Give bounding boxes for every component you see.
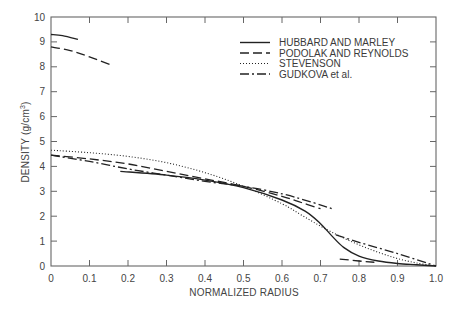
series-line (51, 47, 113, 66)
y-tick-label: 8 (39, 61, 45, 72)
y-tick-label: 3 (39, 186, 45, 197)
series-line (336, 235, 436, 266)
series-dotted (51, 150, 436, 266)
series-line (51, 150, 436, 266)
x-tick-label: 1.0 (429, 273, 443, 284)
x-tick-label: 0.6 (275, 273, 289, 284)
y-tick-label: 7 (39, 86, 45, 97)
x-tick-label: 0.5 (237, 273, 251, 284)
data-series (51, 34, 436, 266)
x-tick-label: 0.8 (352, 273, 366, 284)
x-tick-label: 0.9 (391, 273, 405, 284)
x-tick-label: 0.3 (160, 273, 174, 284)
y-tick-label: 9 (39, 36, 45, 47)
legend-label: GUDKOVA et al. (279, 69, 352, 80)
legend-label: HUBBARD AND MARLEY (279, 37, 395, 48)
x-tick-label: 0.4 (198, 273, 212, 284)
y-tick-label: 2 (39, 211, 45, 222)
density-chart: 012345678910 00.10.20.30.40.50.60.70.80.… (0, 0, 458, 313)
x-tick-label: 0.2 (121, 273, 135, 284)
y-tick-label: 0 (39, 261, 45, 272)
x-axis-title: NORMALIZED RADIUS (189, 287, 299, 298)
legend-label: PODOLAK AND REYNOLDS (279, 48, 409, 59)
series-dashdot (51, 155, 436, 266)
legend: HUBBARD AND MARLEYPODOLAK AND REYNOLDSST… (240, 37, 409, 80)
y-axis-title: DENSITY (g/cm3) (19, 101, 31, 182)
y-tick-label: 1 (39, 236, 45, 247)
series-line (51, 155, 321, 209)
y-tick-label: 4 (39, 161, 45, 172)
x-tick-label: 0.7 (314, 273, 328, 284)
y-tick-label: 10 (34, 12, 46, 23)
series-line (120, 171, 436, 266)
x-tick-label: 0.1 (83, 273, 97, 284)
x-tick-label: 0 (48, 273, 54, 284)
series-line (51, 34, 78, 39)
series-line (51, 155, 332, 209)
legend-label: STEVENSON (279, 58, 341, 69)
y-tick-label: 5 (39, 136, 45, 147)
series-solid (51, 34, 436, 266)
y-tick-label: 6 (39, 111, 45, 122)
